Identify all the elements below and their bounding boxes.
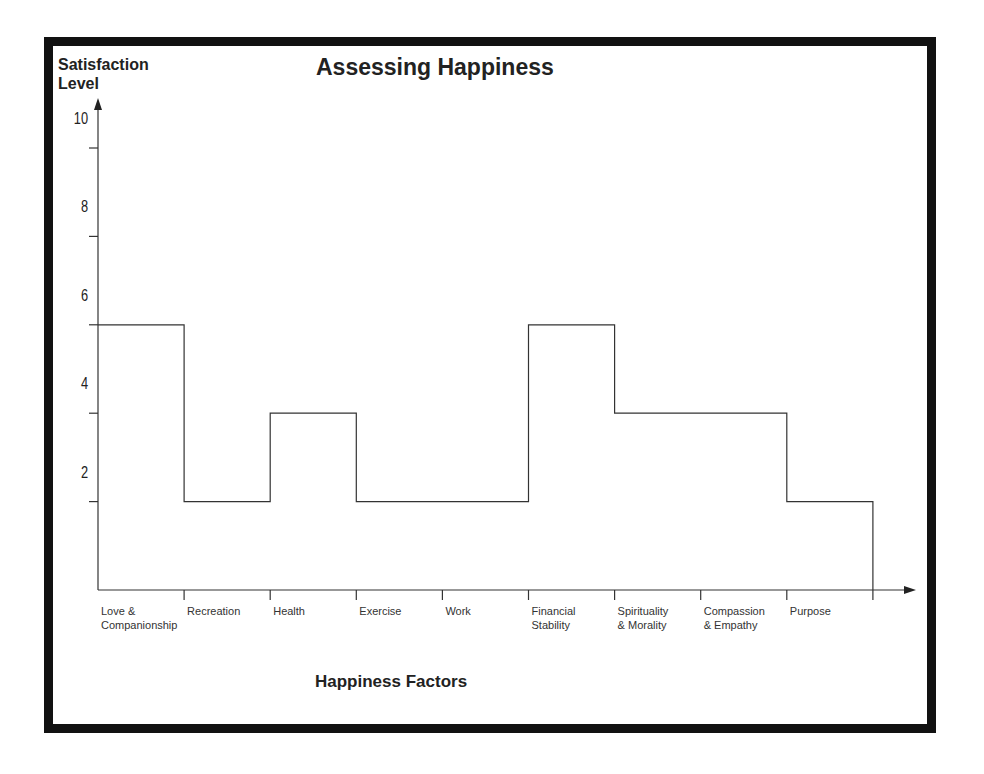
x-category-label: Work [445, 604, 470, 618]
x-category-label: Compassion& Empathy [704, 604, 765, 632]
y-tick-label: 2 [72, 464, 88, 482]
y-tick-label: 4 [72, 375, 88, 393]
x-category-label: Health [273, 604, 305, 618]
y-tick-label: 10 [72, 110, 88, 128]
x-category-label: Recreation [187, 604, 240, 618]
plot-area [0, 0, 984, 774]
y-axis-arrow-icon [94, 98, 102, 110]
step-series [98, 325, 873, 590]
x-category-label: FinancialStability [532, 604, 576, 632]
x-category-label: Spirituality& Morality [618, 604, 669, 632]
x-category-label: Purpose [790, 604, 831, 618]
y-tick-label: 6 [72, 287, 88, 305]
y-tick-label: 8 [72, 198, 88, 216]
x-category-label: Exercise [359, 604, 401, 618]
x-axis-arrow-icon [904, 586, 916, 594]
x-category-label: Love &Companionship [101, 604, 177, 632]
